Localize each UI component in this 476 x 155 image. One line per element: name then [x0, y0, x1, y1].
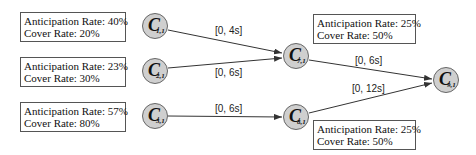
- node-c7-1: C 7,1: [283, 43, 309, 69]
- node-subscript: 2,1: [156, 72, 165, 80]
- anticipation-rate: Anticipation Rate: 25%: [317, 17, 412, 29]
- info-box-c3: Anticipation Rate: 57% Cover Rate: 80%: [20, 102, 126, 132]
- node-c9-1: C 9,1: [433, 67, 459, 93]
- node-subscript: 1,1: [156, 27, 165, 35]
- cover-rate: Cover Rate: 50%: [317, 29, 412, 41]
- edge-label-c3-c8: [0, 6s]: [215, 103, 242, 114]
- info-box-c7: Anticipation Rate: 25% Cover Rate: 50%: [313, 14, 416, 44]
- edge-label-c8-c9: [0, 12s]: [352, 83, 385, 94]
- edge-label-c1-c7: [0, 4s]: [215, 25, 242, 36]
- dependency-diagram: Anticipation Rate: 40% Cover Rate: 20% A…: [0, 0, 476, 155]
- node-c2-1: C 2,1: [142, 58, 168, 84]
- node-subscript: 7,1: [297, 57, 306, 65]
- anticipation-rate: Anticipation Rate: 23%: [24, 60, 122, 72]
- cover-rate: Cover Rate: 20%: [24, 27, 122, 39]
- node-subscript: 9,1: [447, 81, 456, 89]
- node-subscript: 8,1: [297, 118, 306, 126]
- info-box-c1: Anticipation Rate: 40% Cover Rate: 20%: [20, 12, 126, 42]
- node-c3-1: C 3,1: [142, 103, 168, 129]
- edge-label-c2-c7: [0, 6s]: [215, 67, 242, 78]
- anticipation-rate: Anticipation Rate: 25%: [317, 123, 412, 135]
- info-box-c8: Anticipation Rate: 25% Cover Rate: 50%: [313, 120, 416, 150]
- cover-rate: Cover Rate: 50%: [317, 135, 412, 147]
- edge-label-c7-c9: [0, 6s]: [355, 55, 382, 66]
- info-box-c2: Anticipation Rate: 23% Cover Rate: 30%: [20, 57, 126, 87]
- node-subscript: 3,1: [156, 117, 165, 125]
- anticipation-rate: Anticipation Rate: 40%: [24, 15, 122, 27]
- cover-rate: Cover Rate: 30%: [24, 72, 122, 84]
- node-c8-1: C 8,1: [283, 104, 309, 130]
- edge-c3-c8: [168, 116, 282, 117]
- anticipation-rate: Anticipation Rate: 57%: [24, 105, 122, 117]
- cover-rate: Cover Rate: 80%: [24, 117, 122, 129]
- node-c1-1: C 1,1: [142, 13, 168, 39]
